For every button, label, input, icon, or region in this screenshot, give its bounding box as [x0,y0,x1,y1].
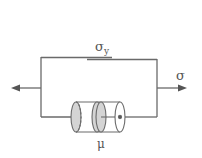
left-arrow-head-icon [11,85,20,92]
stress-label: σ [176,68,185,83]
right-arrow-head-icon [178,85,187,92]
bingham-model-diagram: σy σ μ [0,0,202,158]
viscosity-label: μ [97,137,105,151]
dashpot [71,102,125,132]
yield-stress-label: σy [95,39,110,56]
